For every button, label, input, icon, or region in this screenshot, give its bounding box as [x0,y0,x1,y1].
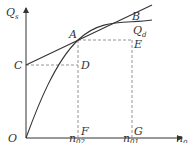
point-C-label: C [14,59,23,72]
point-A-label: A [68,28,77,41]
origin-label: O [8,132,17,143]
point-F-label: F [80,125,89,138]
point-E-label: E [133,38,142,51]
point-B-label: B [131,10,140,23]
curve-Qd-label: Qd [133,24,147,39]
x-axis-label: n0 [176,132,188,143]
y-axis-label: Qs [6,6,19,21]
point-D-label: D [80,59,90,72]
point-G-label: G [134,125,143,138]
diagram-canvas: Qs O n0 A B C D E F G Qd n02 n01 [0,0,194,143]
